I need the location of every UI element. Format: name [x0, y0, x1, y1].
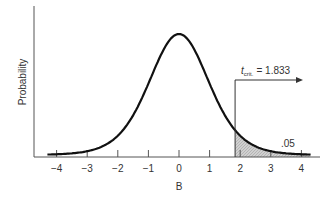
density-curve: [47, 34, 310, 155]
critical-value-label: tcrit.= 1.833: [241, 65, 291, 77]
y-axis-label: Probability: [17, 59, 28, 106]
t-distribution-chart: −4−3−2−101234 tcrit.= 1.833 .05 B Probab…: [0, 0, 335, 200]
x-tick-label: −4: [51, 163, 63, 174]
x-tick-label: −1: [143, 163, 155, 174]
x-tick-label: 1: [207, 163, 213, 174]
x-tick-label: 0: [176, 163, 182, 174]
x-tick-label: 3: [268, 163, 274, 174]
x-tick-label: −3: [81, 163, 93, 174]
x-axis-label: B: [176, 181, 183, 192]
arrowhead-icon: [296, 77, 303, 83]
x-tick-label: −2: [112, 163, 124, 174]
x-axis-tick-labels: −4−3−2−101234: [51, 163, 305, 174]
x-tick-label: 2: [237, 163, 243, 174]
x-tick-label: 4: [299, 163, 305, 174]
tail-area-label: .05: [281, 138, 295, 149]
rejection-region-shading: [235, 130, 311, 157]
